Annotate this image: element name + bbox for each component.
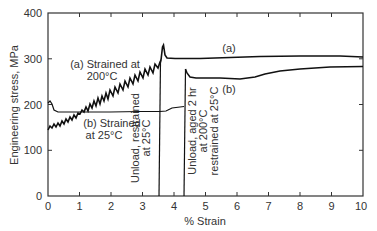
svg-text:10: 10	[355, 200, 367, 212]
svg-text:8: 8	[297, 200, 303, 212]
x-axis-label: % Strain	[184, 215, 226, 227]
svg-text:7: 7	[265, 200, 271, 212]
label-curve-b: (b)	[222, 83, 235, 95]
y-axis-label: Engineering stress, MPa	[8, 44, 20, 165]
svg-text:4: 4	[171, 200, 177, 212]
svg-text:200: 200	[24, 99, 42, 111]
svg-text:3: 3	[139, 200, 145, 212]
svg-text:6: 6	[234, 200, 240, 212]
series-b-line	[48, 101, 184, 112]
label-a-temp: 200°C	[87, 70, 118, 82]
svg-text:400: 400	[24, 7, 42, 19]
unload-line-1	[159, 60, 161, 196]
label-a-strained: (a) Strained at	[70, 58, 140, 70]
x-tick-labels: 0 1 2 3 4 5 6 7 8 9 10	[45, 200, 367, 212]
label-unload-restrained-temp: at 25°C	[140, 120, 152, 157]
label-curve-a: (a)	[222, 42, 235, 54]
x-ticks	[80, 13, 332, 196]
y-tick-labels: 0 100 200 300 400	[24, 7, 42, 202]
label-unload-aged-restrained: restrained at 25°C	[208, 87, 220, 176]
svg-text:9: 9	[328, 200, 334, 212]
svg-text:1: 1	[76, 200, 82, 212]
svg-text:0: 0	[36, 190, 42, 202]
label-b-temp: at 25°C	[86, 129, 123, 141]
svg-text:100: 100	[24, 144, 42, 156]
series-b-reload-line	[186, 67, 364, 80]
svg-text:5: 5	[202, 200, 208, 212]
chart: 0 100 200 300 400 0 1 2 3 4 5 6 7 8 9 10…	[0, 0, 377, 231]
svg-text:2: 2	[108, 200, 114, 212]
svg-text:300: 300	[24, 53, 42, 65]
svg-text:0: 0	[45, 200, 51, 212]
